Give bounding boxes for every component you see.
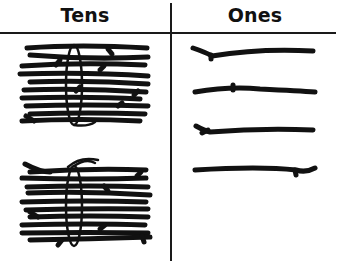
stick-bundle-icon bbox=[20, 46, 148, 121]
single-stick-icon bbox=[195, 85, 315, 92]
single-stick-icon bbox=[196, 126, 313, 133]
single-stick-icon bbox=[195, 168, 315, 175]
single-stick-icon bbox=[193, 48, 313, 59]
place-value-drawing bbox=[0, 0, 340, 265]
stick-bundle-icon bbox=[22, 164, 150, 245]
